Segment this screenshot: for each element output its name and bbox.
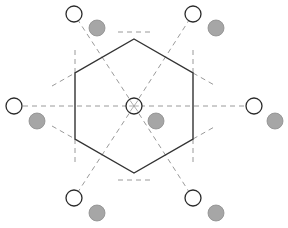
filled-circle [89,205,105,221]
hexagon-lattice-diagram [0,0,288,228]
open-circle [66,190,82,206]
filled-circle [29,113,45,129]
open-circle [6,98,22,114]
open-circle [185,190,201,206]
open-circle [185,6,201,22]
open-circle [66,6,82,22]
filled-grey-circles [29,20,283,221]
vertex-dashed-line [193,126,216,139]
filled-circle [208,20,224,36]
vertex-dashed-line [52,73,75,86]
filled-circle [267,113,283,129]
radial-dashed-line [134,14,193,106]
open-circle [246,98,262,114]
filled-circle [208,205,224,221]
radial-dashed-line [74,106,134,198]
filled-circle [148,113,164,129]
vertex-dashed-line [193,73,216,86]
vertex-dashed-line [52,126,75,139]
filled-circle [89,20,105,36]
center-site [126,98,142,114]
